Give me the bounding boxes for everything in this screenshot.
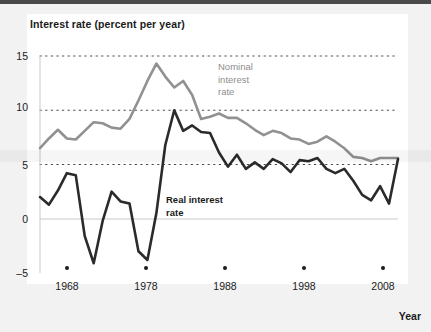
chart-figure: Interest rate (percent per year) 15 10 5… (0, 0, 431, 332)
series-label-real-interest-rate: Real interest rate (166, 194, 223, 219)
series-label-nominal-interest-rate: Nominal interest rate (218, 61, 253, 99)
chart-plot-area (0, 0, 431, 332)
series-line-real-interest-rate (40, 110, 398, 263)
